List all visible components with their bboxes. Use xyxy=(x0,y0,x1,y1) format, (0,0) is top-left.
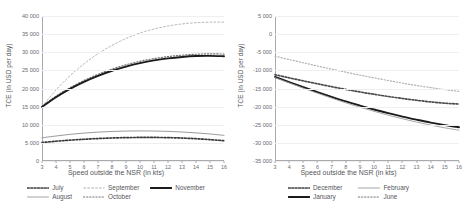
x-axis-tick-mark xyxy=(289,161,290,163)
legend-item-june[interactable]: June xyxy=(358,193,409,200)
gridline xyxy=(42,70,224,71)
legend-item-february[interactable]: February xyxy=(358,184,409,191)
gridline xyxy=(42,52,224,53)
legend-swatch-icon xyxy=(27,185,49,191)
gridline xyxy=(42,34,224,35)
x-axis-tick-mark xyxy=(84,161,85,163)
y-axis-tick-label: 10 000 xyxy=(22,122,39,128)
figure-two-panel-line-charts: TCE (in USD per day) 05 00010 00015 0002… xyxy=(0,0,465,209)
left-legend: JulySeptemberNovemberAugustOctober xyxy=(0,184,232,200)
legend-label: October xyxy=(108,193,131,200)
x-axis-tick-mark xyxy=(430,161,431,163)
legend-swatch-icon xyxy=(358,185,380,191)
x-axis-tick-mark xyxy=(331,161,332,163)
y-axis-tick-label: -20 000 xyxy=(253,104,272,110)
right-x-axis-title: Speed outside the NSR (in kts) xyxy=(232,169,465,176)
y-axis-tick-label: 40 000 xyxy=(22,13,39,19)
x-axis-tick-mark xyxy=(444,161,445,163)
y-axis-tick-label: -10 000 xyxy=(253,67,272,73)
legend-item-august[interactable]: August xyxy=(27,193,72,200)
right-plot-area: -35 000-30 000-25 000-20 000-15 000-10 0… xyxy=(275,16,459,161)
y-axis-tick-label: 0 xyxy=(36,158,39,164)
y-axis-tick-label: 0 xyxy=(269,31,272,37)
x-axis-tick-mark xyxy=(459,161,460,163)
x-axis-tick-mark xyxy=(56,161,57,163)
legend-label: February xyxy=(383,184,409,191)
legend-label: July xyxy=(52,184,63,191)
gridline xyxy=(42,125,224,126)
y-axis-tick-label: 5 000 xyxy=(25,140,39,146)
gridline xyxy=(275,52,459,53)
x-axis-tick-mark xyxy=(359,161,360,163)
legend-swatch-icon xyxy=(27,194,49,200)
legend-swatch-icon xyxy=(288,194,310,200)
gridline xyxy=(42,143,224,144)
x-axis-tick-mark xyxy=(210,161,211,163)
x-axis-tick-mark xyxy=(275,161,276,163)
legend-swatch-icon xyxy=(83,185,105,191)
x-axis-tick-mark xyxy=(126,161,127,163)
legend-item-january[interactable]: January xyxy=(288,193,342,200)
legend-label: September xyxy=(108,184,139,191)
y-axis-tick-label: 15 000 xyxy=(22,104,39,110)
legend-item-november[interactable]: November xyxy=(150,184,204,191)
series-line-november xyxy=(42,56,224,107)
x-axis-tick-mark xyxy=(42,161,43,163)
series-line-october xyxy=(42,54,224,106)
series-line-august xyxy=(42,131,224,138)
x-axis-tick-mark xyxy=(98,161,99,163)
legend-label: August xyxy=(52,193,72,200)
legend-swatch-icon xyxy=(288,185,310,191)
legend-item-september[interactable]: September xyxy=(83,184,139,191)
x-axis-tick-mark xyxy=(168,161,169,163)
y-axis-tick-label: -35 000 xyxy=(253,158,272,164)
left-plot-area: 05 00010 00015 00020 00025 00030 00035 0… xyxy=(42,16,224,161)
x-axis-tick-mark xyxy=(224,161,225,163)
x-axis-tick-mark xyxy=(196,161,197,163)
y-axis-tick-label: -25 000 xyxy=(253,122,272,128)
legend-swatch-icon xyxy=(150,185,172,191)
gridline xyxy=(275,16,459,17)
y-axis-tick-label: 5 000 xyxy=(258,13,272,19)
legend-item-july[interactable]: July xyxy=(27,184,72,191)
right-legend: DecemberFebruaryJanuaryJune xyxy=(232,184,465,200)
gridline xyxy=(275,143,459,144)
chart-panel-left: TCE (in USD per day) 05 00010 00015 0002… xyxy=(0,0,232,209)
y-axis-tick-label: 20 000 xyxy=(22,86,39,92)
left-x-axis-title: Speed outside the NSR (in kts) xyxy=(0,169,232,176)
legend-item-december[interactable]: December xyxy=(288,184,342,191)
x-axis-tick-mark xyxy=(416,161,417,163)
gridline xyxy=(275,70,459,71)
legend-item-october[interactable]: October xyxy=(83,193,139,200)
gridline xyxy=(275,89,459,90)
x-axis-tick-mark xyxy=(303,161,304,163)
y-axis-tick-label: 35 000 xyxy=(22,31,39,37)
y-axis-tick-label: 25 000 xyxy=(22,67,39,73)
legend-label: December xyxy=(313,184,342,191)
gridline xyxy=(42,89,224,90)
legend-label: November xyxy=(175,184,204,191)
gridline xyxy=(275,34,459,35)
legend-label: June xyxy=(383,193,397,200)
gridline xyxy=(275,107,459,108)
legend-label: January xyxy=(313,193,336,200)
left-y-axis-title: TCE (in USD per day) xyxy=(1,0,15,150)
gridline xyxy=(42,16,224,17)
x-axis-tick-mark xyxy=(345,161,346,163)
x-axis-tick-mark xyxy=(402,161,403,163)
x-axis-tick-mark xyxy=(112,161,113,163)
x-axis-tick-mark xyxy=(70,161,71,163)
legend-swatch-icon xyxy=(358,194,380,200)
chart-panel-right: TCE (in USD per day) -35 000-30 000-25 0… xyxy=(232,0,465,209)
x-axis-tick-mark xyxy=(374,161,375,163)
gridline xyxy=(275,125,459,126)
y-axis-tick-label: 30 000 xyxy=(22,49,39,55)
x-axis-tick-mark xyxy=(388,161,389,163)
y-axis-tick-label: -15 000 xyxy=(253,86,272,92)
x-axis-tick-mark xyxy=(140,161,141,163)
right-y-axis-title: TCE (in USD per day) xyxy=(233,0,247,150)
x-axis-tick-mark xyxy=(182,161,183,163)
x-axis-tick-mark xyxy=(154,161,155,163)
y-axis-tick-label: -30 000 xyxy=(253,140,272,146)
y-axis-tick-label: -5 000 xyxy=(256,49,272,55)
